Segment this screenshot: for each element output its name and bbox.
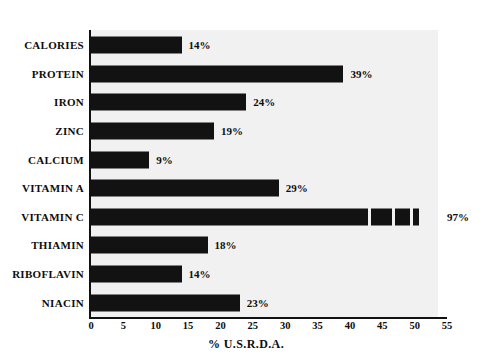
x-tick-label: 0 [88, 320, 93, 331]
category-label: VITAMIN A [22, 182, 84, 194]
x-tick-label: 55 [442, 320, 453, 331]
category-label: CALORIES [24, 39, 84, 51]
bar-row: THIAMIN18% [0, 231, 492, 260]
bar [91, 37, 182, 54]
x-tick-label: 45 [377, 320, 388, 331]
bar [91, 266, 182, 283]
x-tick-label: 40 [345, 320, 356, 331]
x-tick-label: 20 [215, 320, 226, 331]
x-tick-label: 50 [409, 320, 420, 331]
bar-value-label: 14% [189, 39, 211, 51]
category-label: THIAMIN [31, 239, 84, 251]
bar-value-label: 97% [447, 211, 469, 223]
bar-row: VITAMIN C97% [0, 203, 492, 232]
bar-row: NIACIN23% [0, 288, 492, 317]
category-label: NIACIN [42, 297, 84, 309]
category-label: CALCIUM [28, 154, 84, 166]
bar-chart-figure: CALORIES14%PROTEIN39%IRON24%ZINC19%CALCI… [0, 0, 492, 358]
category-label: VITAMIN C [21, 211, 84, 223]
bar-value-label: 18% [215, 239, 237, 251]
bar-break-segment [395, 208, 410, 225]
bar-row: PROTEIN39% [0, 60, 492, 89]
x-tick-label: 30 [280, 320, 291, 331]
bar-row: ZINC19% [0, 117, 492, 146]
x-tick-label: 5 [121, 320, 126, 331]
category-label: IRON [54, 96, 84, 108]
bar-value-label: 14% [189, 268, 211, 280]
bar-value-label: 9% [156, 154, 173, 166]
x-axis-ticks: 0510152025303540455055 [0, 320, 492, 336]
x-axis-line [89, 317, 447, 319]
category-label: RIBOFLAVIN [12, 268, 84, 280]
x-axis-title: % U.S.R.D.A. [0, 337, 492, 352]
bar [91, 151, 149, 168]
bar [91, 123, 214, 140]
bar [91, 237, 208, 254]
x-tick-label: 35 [312, 320, 323, 331]
bar-value-label: 39% [350, 68, 372, 80]
bar-row: IRON24% [0, 88, 492, 117]
bar-break-segment [371, 208, 392, 225]
bar-break-segment [413, 208, 419, 225]
category-label: PROTEIN [32, 68, 84, 80]
bar [91, 294, 240, 311]
bar-value-label: 24% [253, 96, 275, 108]
bar [91, 180, 279, 197]
bar-value-label: 23% [247, 297, 269, 309]
x-tick-label: 25 [248, 320, 259, 331]
bar-row: VITAMIN A29% [0, 174, 492, 203]
bar-value-label: 29% [286, 182, 308, 194]
bar-row: CALORIES14% [0, 31, 492, 60]
x-tick-label: 10 [150, 320, 161, 331]
bar-value-label: 19% [221, 125, 243, 137]
bar [91, 94, 246, 111]
x-tick-label: 15 [183, 320, 194, 331]
bar-row: CALCIUM9% [0, 145, 492, 174]
bar [91, 65, 343, 82]
category-label: ZINC [55, 125, 84, 137]
bar [91, 208, 368, 225]
bar-row: RIBOFLAVIN14% [0, 260, 492, 289]
